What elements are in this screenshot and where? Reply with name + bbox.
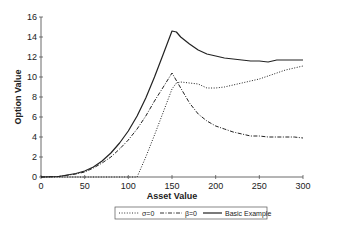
x-tick-label: 250 (252, 181, 267, 191)
y-tick-label: 0 (32, 172, 37, 182)
series-line-1 (41, 73, 303, 177)
legend-label-sigma: σ=0 (142, 210, 154, 217)
x-tick-label: 50 (80, 181, 90, 191)
series-line-0 (41, 66, 303, 177)
x-tick-label: 200 (208, 181, 223, 191)
x-tick-label: 0 (38, 181, 43, 191)
x-tick-label: 150 (164, 181, 179, 191)
chart-legend: σ=0 β=0 Basic Example (115, 207, 271, 219)
y-tick-label: 2 (32, 152, 37, 162)
y-tick-label: 8 (32, 92, 37, 102)
line-chart: 0246810121416050100150200250300 Asset Va… (0, 0, 352, 232)
y-tick-label: 10 (27, 72, 37, 82)
y-tick-label: 16 (27, 12, 37, 22)
y-tick-label: 6 (32, 112, 37, 122)
x-tick-label: 300 (295, 181, 310, 191)
x-axis-title: Asset Value (147, 191, 198, 201)
legend-label-beta: β=0 (185, 210, 197, 218)
legend-label-basic: Basic Example (225, 210, 271, 218)
x-tick-label: 100 (121, 181, 136, 191)
y-tick-label: 14 (27, 32, 37, 42)
series-line-2 (41, 31, 303, 177)
y-tick-label: 4 (32, 132, 37, 142)
y-axis-title: Option Value (13, 69, 23, 124)
plot-area (41, 31, 303, 177)
y-tick-label: 12 (27, 52, 37, 62)
